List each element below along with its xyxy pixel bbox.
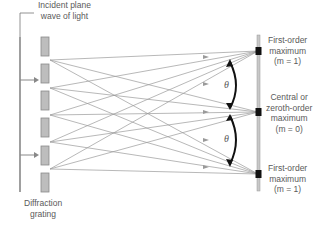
grating-line-1: Diffraction: [24, 198, 62, 209]
theta-label-top: θ: [224, 80, 229, 91]
label-line: (m = 1): [268, 56, 307, 67]
central-maximum-label: Central or zeroth-order maximum (m = 0): [266, 92, 312, 134]
incident-line-2: wave of light: [38, 11, 91, 22]
label-line: maximum: [268, 174, 307, 185]
theta-label-bottom: θ: [224, 134, 229, 145]
label-line: zeroth-order: [266, 103, 312, 114]
viewing-screen: [256, 35, 262, 191]
first-order-bottom-label: First-order maximum (m = 1): [268, 163, 307, 195]
label-line: maximum: [266, 113, 312, 124]
label-line: (m = 1): [268, 184, 307, 195]
label-line: First-order: [268, 35, 307, 46]
grating-slits: [41, 37, 49, 192]
grating-line-2: grating: [24, 209, 62, 220]
diffracted-rays: [50, 51, 258, 174]
incident-wavefront: [20, 13, 39, 192]
label-line: (m = 0): [266, 124, 312, 135]
label-line: Central or: [266, 92, 312, 103]
grating-label: Diffraction grating: [24, 198, 62, 219]
incident-wave-label: Incident plane wave of light: [38, 0, 91, 21]
label-line: First-order: [268, 163, 307, 174]
first-order-top-label: First-order maximum (m = 1): [268, 35, 307, 67]
label-line: maximum: [268, 46, 307, 57]
incident-line-1: Incident plane: [38, 0, 91, 11]
theta-arcs: [230, 62, 236, 164]
arc-arrow-icon: [226, 114, 233, 121]
